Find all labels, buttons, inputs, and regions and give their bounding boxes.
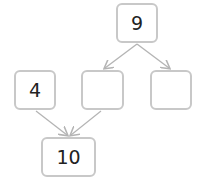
node-middle bbox=[81, 70, 124, 110]
node-value: 9 bbox=[131, 12, 143, 34]
arrow-left-to-bottom bbox=[36, 111, 67, 135]
arrow-top-to-right bbox=[137, 44, 169, 68]
number-bond-diagram: 9 4 10 bbox=[0, 0, 200, 189]
arrow-top-to-middle bbox=[105, 44, 137, 68]
node-right bbox=[150, 70, 192, 110]
node-value: 10 bbox=[56, 146, 80, 168]
node-value: 4 bbox=[29, 79, 41, 101]
node-left: 4 bbox=[14, 70, 56, 110]
node-top: 9 bbox=[116, 3, 158, 43]
node-bottom: 10 bbox=[41, 137, 96, 177]
arrow-middle-to-bottom bbox=[71, 111, 101, 135]
